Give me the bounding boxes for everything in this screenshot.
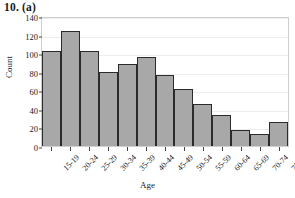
x-tick-label: 40-44	[156, 153, 176, 173]
x-tick-mark	[165, 147, 166, 151]
x-tick-mark	[127, 147, 128, 151]
bar	[156, 75, 175, 147]
x-tick-mark	[260, 147, 261, 151]
x-tick-label: 45-49	[175, 153, 195, 173]
x-tick-label: 55-59	[214, 153, 234, 173]
x-tick-label: 20-24	[80, 153, 100, 173]
bar	[231, 130, 250, 146]
x-tick-mark	[70, 147, 71, 151]
x-tick-mark	[108, 147, 109, 151]
x-tick-label: 25-29	[99, 153, 119, 173]
bar	[250, 134, 269, 146]
bar	[80, 51, 99, 146]
x-tick-label: 60-64	[233, 153, 253, 173]
x-tick-label: 70-74	[271, 153, 291, 173]
x-tick-label: 30-34	[118, 153, 138, 173]
bar	[42, 51, 61, 146]
x-tick-mark	[146, 147, 147, 151]
bar	[269, 122, 288, 146]
bar	[61, 31, 80, 146]
bar	[174, 89, 193, 146]
x-tick-label: 35-39	[137, 153, 157, 173]
x-tick-label: 65-69	[252, 153, 272, 173]
x-tick-label: 75-79	[290, 153, 295, 173]
bar	[212, 115, 231, 146]
x-tick-label: 15-19	[61, 153, 81, 173]
bar-series	[42, 18, 288, 146]
x-tick-mark	[279, 147, 280, 151]
figure-title: 10. (a)	[4, 1, 36, 13]
x-tick-mark	[184, 147, 185, 151]
x-tick-mark	[51, 147, 52, 151]
bar	[137, 57, 156, 146]
x-tick-mark	[241, 147, 242, 151]
y-axis-label: Count	[4, 37, 14, 97]
x-tick-mark	[203, 147, 204, 151]
histogram-figure: 10. (a) Count 020406080100120140 15-1920…	[0, 0, 295, 198]
x-tick-mark	[89, 147, 90, 151]
x-tick-label: 50-54	[195, 153, 215, 173]
x-axis-label: Age	[0, 180, 295, 190]
bar	[193, 104, 212, 146]
x-tick-mark	[222, 147, 223, 151]
plot-area: 020406080100120140	[41, 17, 289, 147]
bar	[118, 64, 137, 146]
x-axis-ticks: 15-1920-2425-2930-3435-3940-4445-4950-54…	[41, 147, 289, 148]
bar	[99, 72, 118, 146]
